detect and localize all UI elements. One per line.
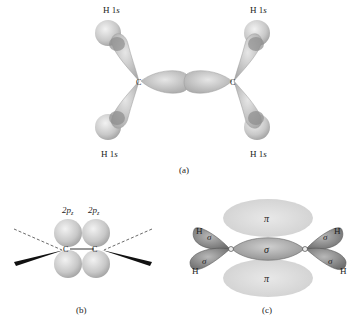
carbon-label-b-left: C (63, 245, 68, 254)
orbital-label-left: 2pz (62, 205, 74, 216)
h-label-c-upper-right: H (334, 226, 341, 236)
caption-a: (a) (179, 165, 189, 175)
sigma-ch-upper-left: σ (207, 232, 212, 242)
carbon-label-right: C (230, 78, 235, 87)
2pz-lobe-upper-left (54, 219, 82, 247)
caption-c: (c) (262, 305, 272, 315)
sigma-ch-lower-left: σ (202, 256, 207, 266)
2pz-lobe-upper-right (82, 219, 110, 247)
2pz-lobe-lower-right (82, 250, 110, 278)
carbon-label-b-right: C (92, 245, 97, 254)
sp2-lobe-cc-right (184, 71, 232, 94)
h-label-bottom-left: H 1s (101, 149, 118, 159)
dashed-bond-right (104, 229, 152, 250)
h-label-c-lower-right: H (340, 266, 347, 276)
carbon-atom-left (229, 247, 234, 252)
h-label-c-upper-left: H (196, 226, 203, 236)
2pz-lobe-lower-left (54, 250, 82, 278)
sp2-lobe-cc-left (141, 71, 189, 94)
panel-c: π π σ H H H H σ σ σ σ (c) (190, 199, 347, 315)
orbital-label-right: 2pz (88, 205, 100, 216)
h-label-top-left: H 1s (103, 5, 120, 15)
sigma-ch-upper-right: σ (323, 232, 328, 242)
caption-b: (b) (76, 305, 87, 315)
h-label-c-lower-left: H (192, 266, 199, 276)
panel-a: H 1s H 1s H 1s H 1s C C (a) (95, 5, 270, 175)
carbon-atom-right (303, 247, 308, 252)
carbon-label-left: C (136, 78, 141, 87)
panel-b: C C 2pz 2pz (b) (14, 205, 152, 315)
h-label-top-right: H 1s (250, 5, 267, 15)
sigma-ch-lower-right: σ (328, 256, 333, 266)
ethylene-orbital-diagram: H 1s H 1s H 1s H 1s C C (a) C C 2pz 2pz … (0, 0, 360, 316)
h-label-bottom-right: H 1s (250, 149, 267, 159)
